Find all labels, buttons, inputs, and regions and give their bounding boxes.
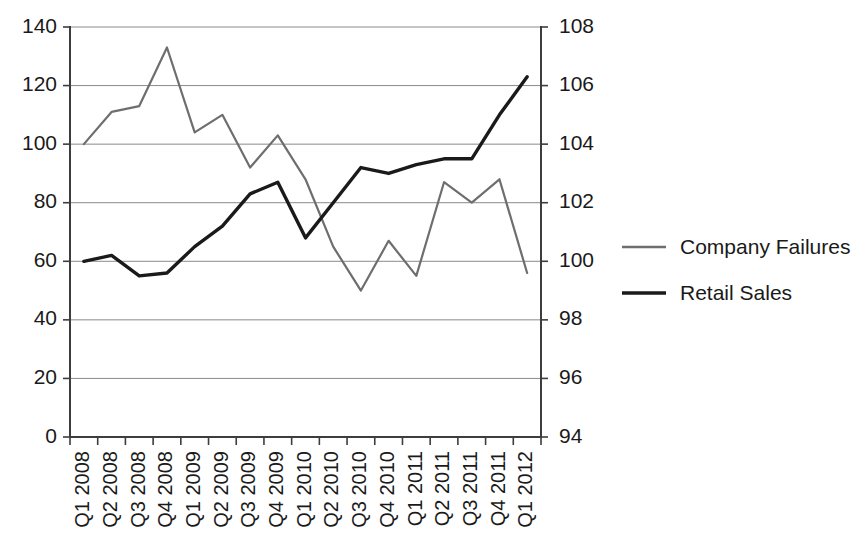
right-axis-tick-label: 100 — [559, 248, 594, 271]
x-axis-tick-label: Q3 2009 — [237, 451, 259, 528]
x-axis-tick-label: Q2 2011 — [431, 451, 453, 526]
x-axis-tick-label: Q2 2008 — [99, 451, 121, 528]
left-axis-tick-label: 120 — [22, 72, 57, 95]
x-axis-tick-label: Q1 2008 — [71, 451, 93, 528]
x-axis-tick-label: Q1 2010 — [293, 451, 315, 528]
left-axis-tick-label: 100 — [22, 131, 57, 154]
right-axis-labels: 949698100102104106108 — [559, 14, 594, 447]
right-axis-tick-label: 106 — [559, 72, 594, 95]
gridlines-group — [70, 27, 541, 437]
x-axis-tick-label: Q2 2009 — [210, 451, 232, 528]
x-axis-tick-label: Q3 2008 — [127, 451, 149, 528]
chart-legend: Company FailuresRetail Sales — [622, 235, 850, 304]
x-axis-tick-label: Q3 2011 — [459, 451, 481, 526]
x-axis-tick-label: Q1 2012 — [514, 451, 536, 528]
x-axis-tick-label: Q4 2009 — [265, 451, 287, 528]
dual-axis-line-chart: 020406080100120140 949698100102104106108… — [0, 0, 864, 552]
right-axis-tick-label: 102 — [559, 189, 594, 212]
right-axis-tick-label: 104 — [559, 131, 594, 154]
left-axis-tick-label: 80 — [34, 189, 57, 212]
series-line-retail-sales — [84, 77, 527, 276]
left-axis-tick-label: 40 — [34, 306, 57, 329]
right-axis-tick-label: 94 — [559, 424, 583, 447]
right-axis-tick-label: 98 — [559, 306, 582, 329]
left-axis-tick-label: 60 — [34, 248, 57, 271]
left-axis-tick-label: 140 — [22, 14, 57, 37]
right-axis-tick-label: 96 — [559, 365, 582, 388]
x-axis-tick-label: Q4 2011 — [487, 451, 509, 526]
series-line-company-failures — [84, 48, 527, 291]
x-axis-tick-label: Q1 2011 — [404, 451, 426, 526]
left-axis-tick-label: 0 — [45, 424, 57, 447]
series-group — [84, 48, 527, 291]
legend-label-company-failures: Company Failures — [680, 235, 850, 258]
x-axis-tick-label: Q3 2010 — [348, 451, 370, 528]
x-axis-tick-label: Q2 2010 — [320, 451, 342, 528]
x-axis-labels: Q1 2008Q2 2008Q3 2008Q4 2008Q1 2009Q2 20… — [71, 451, 536, 528]
x-axis-tick-label: Q4 2008 — [154, 451, 176, 528]
right-axis-tick-label: 108 — [559, 14, 594, 37]
left-axis-tick-label: 20 — [34, 365, 57, 388]
chart-container: 020406080100120140 949698100102104106108… — [0, 0, 864, 552]
x-axis-tick-label: Q1 2009 — [182, 451, 204, 528]
x-axis-tick-label: Q4 2010 — [376, 451, 398, 528]
left-axis-labels: 020406080100120140 — [22, 14, 57, 447]
legend-label-retail-sales: Retail Sales — [680, 281, 792, 304]
